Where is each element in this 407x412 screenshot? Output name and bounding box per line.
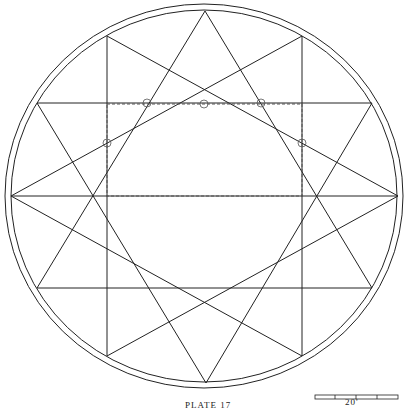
star-diagram [0,0,407,412]
plate-caption: PLATE 17 [185,400,231,410]
dashed-rectangle [107,104,302,196]
triangle-up [37,11,372,288]
triangle-down [37,103,372,383]
scale-label: 20' [345,397,359,407]
